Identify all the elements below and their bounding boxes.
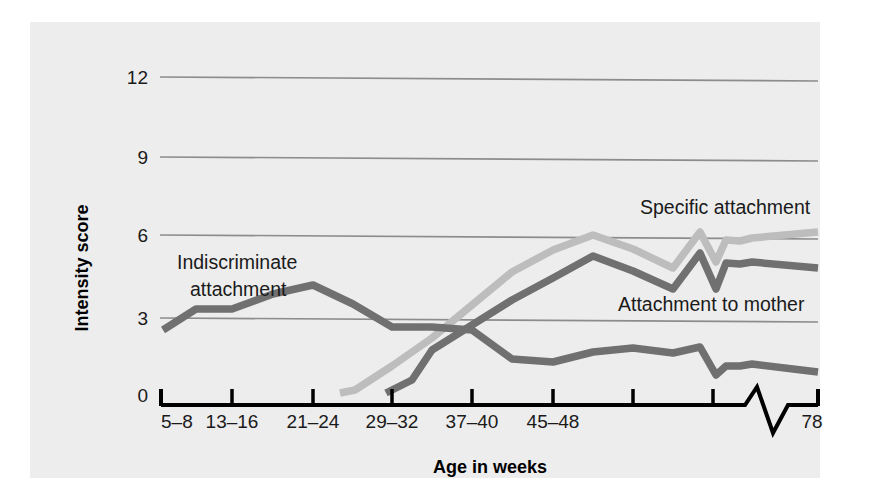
x-tick-label-5-8: 5–8 [161, 411, 193, 432]
x-tick-label-29-32: 29–32 [366, 411, 419, 432]
label-indiscriminate-attachment-line2: attachment [190, 278, 287, 300]
y-tick-label-6: 6 [137, 225, 148, 246]
chart-figure: 12 9 6 3 0 Intensity score [0, 0, 880, 504]
gridline-9 [160, 157, 818, 161]
label-indiscriminate-attachment-line1: Indiscriminate [177, 251, 297, 273]
y-axis-title: Intensity score [72, 204, 92, 331]
x-tick-label-37-40: 37–40 [446, 411, 499, 432]
y-tick-label-3: 3 [137, 308, 148, 329]
x-tick-label-78: 78 [801, 411, 822, 432]
x-axis-ticks [232, 389, 713, 404]
gridline-6 [160, 235, 818, 239]
x-tick-label-21-24: 21–24 [287, 411, 340, 432]
label-attachment-to-mother: Attachment to mother [618, 293, 805, 315]
y-tick-label-0: 0 [137, 385, 148, 406]
line-chart: 12 9 6 3 0 Intensity score [0, 0, 880, 504]
y-tick-label-12: 12 [127, 67, 148, 88]
y-tick-label-9: 9 [137, 147, 148, 168]
label-specific-attachment: Specific attachment [640, 196, 811, 218]
gridline-12 [160, 77, 818, 81]
x-tick-label-13-16: 13–16 [206, 411, 259, 432]
x-tick-label-45-48: 45–48 [527, 411, 580, 432]
x-axis-title: Age in weeks [433, 457, 547, 477]
